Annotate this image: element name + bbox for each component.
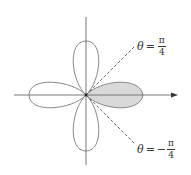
denominator: 4	[159, 47, 165, 57]
denominator: 4	[168, 150, 174, 160]
label-theta-pi-over-4: θ = π 4	[137, 36, 166, 57]
label-theta-neg-pi-over-4: θ = − π 4	[137, 139, 175, 160]
equals-sign: =	[146, 144, 155, 155]
theta-symbol: θ	[137, 144, 144, 155]
numerator: π	[167, 139, 175, 150]
fraction: π 4	[167, 139, 175, 160]
theta-symbol: θ	[137, 41, 144, 52]
origin-point	[85, 94, 88, 97]
fraction: π 4	[158, 36, 166, 57]
x-axis-arrowhead	[171, 93, 178, 98]
sign: −	[157, 144, 166, 155]
numerator: π	[158, 36, 166, 47]
equals-sign: =	[146, 41, 155, 52]
